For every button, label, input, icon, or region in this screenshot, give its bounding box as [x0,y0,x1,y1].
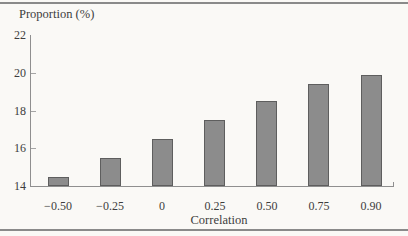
y-tick-mark [31,111,36,112]
x-tick-label: 0.25 [191,200,239,212]
bar [204,120,225,186]
x-tick-label: 0.50 [243,200,291,212]
bar [48,177,69,186]
plot-area: 1416182022−0.50−0.2500.250.500.750.90 [0,0,408,236]
x-tick-label: 0.90 [347,200,395,212]
bar [256,101,277,186]
y-tick-label: 18 [4,105,26,117]
bar [100,158,121,186]
y-tick-label: 22 [4,29,26,41]
y-tick-mark [31,148,36,149]
x-axis-line [30,186,394,187]
bar [308,84,329,186]
x-tick-label: 0 [138,200,186,212]
y-tick-label: 16 [4,142,26,154]
bar [152,139,173,186]
figure: Proportion (%) 1416182022−0.50−0.2500.25… [0,0,408,236]
x-tick-label: −0.50 [34,200,82,212]
x-tick-label: −0.25 [86,200,134,212]
bar [361,75,382,186]
y-tick-mark [31,73,36,74]
x-tick-label: 0.75 [295,200,343,212]
y-tick-label: 14 [4,180,26,192]
x-axis-end-tick [393,182,394,186]
bottom-rule [0,229,408,231]
y-tick-label: 20 [4,67,26,79]
x-axis-title: Correlation [169,213,269,228]
